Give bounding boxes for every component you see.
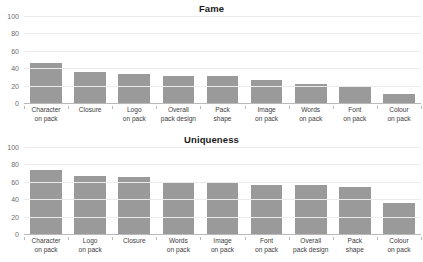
bar-slot [24, 16, 68, 103]
bar[interactable] [163, 183, 195, 234]
x-axis-line-fame [24, 103, 421, 104]
chart-title-uniqueness: Uniqueness [0, 131, 423, 147]
bar[interactable] [383, 94, 415, 103]
bar-slot [245, 16, 289, 103]
x-tick-mark [245, 237, 246, 240]
bar[interactable] [251, 185, 283, 234]
grid-line-fame-40 [24, 68, 421, 69]
y-tick-label-fame-40: 40 [11, 65, 19, 72]
bar[interactable] [74, 176, 106, 234]
x-tick-mark [377, 106, 378, 109]
x-axis-label: Packshape [333, 237, 377, 254]
grid-line-uniqueness-80 [24, 164, 421, 165]
y-tick-label-fame-20: 20 [11, 82, 19, 89]
x-axis-label: Closure [68, 106, 112, 123]
bar-slot [200, 16, 244, 103]
x-tick-mark [68, 106, 69, 109]
y-tick-label-fame-0: 0 [15, 100, 19, 107]
x-axis-label: Wordson pack [156, 237, 200, 254]
y-tick-label-fame-100: 100 [7, 13, 19, 20]
chart-panel-uniqueness: Uniqueness 020406080100 Characteron pack… [0, 131, 423, 262]
bar-slot [156, 147, 200, 234]
x-axis-label: Wordson pack [289, 106, 333, 123]
x-tick-mark [421, 237, 422, 240]
plot-uniqueness [24, 147, 421, 235]
bar-slot [24, 147, 68, 234]
bar[interactable] [295, 185, 327, 234]
bar[interactable] [30, 170, 62, 234]
grid-line-fame-60 [24, 51, 421, 52]
x-tick-mark [112, 237, 113, 240]
x-tick-mark [200, 106, 201, 109]
x-tick-mark [333, 237, 334, 240]
x-tick-mark [289, 237, 290, 240]
x-tick-mark [156, 237, 157, 240]
x-axis-label: Packshape [200, 106, 244, 123]
x-tick-mark [24, 106, 25, 109]
y-tick-label-fame-60: 60 [11, 47, 19, 54]
bar-slot [289, 16, 333, 103]
y-axis-fame: 020406080100 [0, 16, 22, 104]
bar-slot [156, 16, 200, 103]
bar-slot [333, 147, 377, 234]
bar-slot [112, 16, 156, 103]
bar-slot [68, 16, 112, 103]
chart-panel-fame: Fame 020406080100 Characteron packClosur… [0, 0, 423, 131]
x-tick-mark [156, 106, 157, 109]
bar[interactable] [295, 84, 327, 103]
x-axis-label: Overallpack design [289, 237, 333, 254]
y-tick-label-uniqueness-40: 40 [11, 196, 19, 203]
x-axis-line-uniqueness [24, 234, 421, 235]
bar[interactable] [163, 76, 195, 103]
x-tick-mark [289, 106, 290, 109]
bar-group-uniqueness [24, 147, 421, 234]
plot-area-fame: 020406080100 Characteron packClosure Log… [0, 16, 423, 131]
bar-slot [289, 147, 333, 234]
bar[interactable] [339, 87, 371, 103]
y-axis-uniqueness: 020406080100 [0, 147, 22, 235]
bar[interactable] [339, 187, 371, 234]
x-tick-mark [200, 237, 201, 240]
charts-page: Fame 020406080100 Characteron packClosur… [0, 0, 423, 262]
x-tick-mark [333, 106, 334, 109]
grid-line-uniqueness-20 [24, 217, 421, 218]
x-axis-label: Imageon pack [200, 237, 244, 254]
y-tick-label-uniqueness-20: 20 [11, 213, 19, 220]
bar[interactable] [74, 72, 106, 103]
x-tick-mark [245, 106, 246, 109]
x-tick-mark [112, 106, 113, 109]
x-axis-label: Imageon pack [245, 106, 289, 123]
plot-fame [24, 16, 421, 104]
bar[interactable] [383, 203, 415, 234]
x-tick-mark [421, 106, 422, 109]
bar[interactable] [251, 80, 283, 103]
y-tick-label-uniqueness-0: 0 [15, 231, 19, 238]
x-tick-mark [377, 237, 378, 240]
x-axis-label: Fonton pack [245, 237, 289, 254]
plot-area-uniqueness: 020406080100 Characteron packLogoon pack… [0, 147, 423, 262]
grid-line-fame-80 [24, 33, 421, 34]
bar-slot [200, 147, 244, 234]
x-axis-label: Characteron pack [24, 106, 68, 123]
bar[interactable] [207, 76, 239, 103]
bar-slot [245, 147, 289, 234]
y-tick-label-fame-80: 80 [11, 30, 19, 37]
x-axis-labels-uniqueness: Characteron packLogoon packClosure Words… [24, 237, 421, 254]
x-axis-label: Colouron pack [377, 106, 421, 123]
bar[interactable] [118, 177, 150, 234]
grid-line-uniqueness-60 [24, 182, 421, 183]
x-axis-label: Closure [112, 237, 156, 254]
grid-line-fame-100 [24, 16, 421, 17]
y-tick-label-uniqueness-60: 60 [11, 178, 19, 185]
bar-slot [333, 16, 377, 103]
x-axis-label: Logoon pack [112, 106, 156, 123]
x-axis-label: Logoon pack [68, 237, 112, 254]
x-axis-label: Characteron pack [24, 237, 68, 254]
grid-line-uniqueness-40 [24, 199, 421, 200]
bar[interactable] [207, 183, 239, 234]
y-tick-label-uniqueness-80: 80 [11, 161, 19, 168]
grid-line-uniqueness-100 [24, 147, 421, 148]
bar[interactable] [118, 74, 150, 103]
bar-group-fame [24, 16, 421, 103]
x-axis-label: Colouron pack [377, 237, 421, 254]
